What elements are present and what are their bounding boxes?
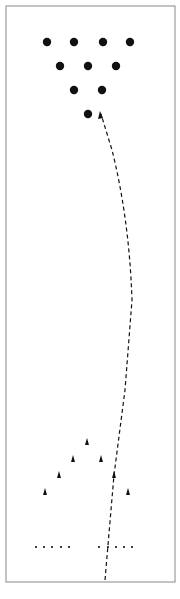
approach-dot: [131, 546, 133, 548]
pin-9: [98, 86, 106, 94]
target-arrow-icon: [43, 488, 47, 495]
pin-7: [112, 62, 120, 70]
target-arrows: [43, 438, 130, 495]
approach-dot: [68, 546, 70, 548]
pin-3: [99, 38, 107, 46]
target-arrow-icon: [99, 455, 103, 462]
approach-dot: [35, 546, 37, 548]
target-arrow-icon: [71, 455, 75, 462]
lane-border: [6, 6, 175, 582]
pin-10: [84, 110, 92, 118]
pin-5: [56, 62, 64, 70]
pin-2: [70, 38, 78, 46]
pin-formation: [43, 38, 134, 118]
ball-path-arrowhead-icon: [98, 111, 103, 119]
pin-4: [126, 38, 134, 46]
approach-dot: [43, 546, 45, 548]
bowling-lane-diagram: [0, 0, 180, 599]
target-arrow-icon: [85, 438, 89, 445]
ball-path: [101, 114, 132, 580]
pin-6: [84, 62, 92, 70]
approach-dot: [51, 546, 53, 548]
pin-1: [43, 38, 51, 46]
approach-dot: [98, 546, 100, 548]
approach-dot: [115, 546, 117, 548]
approach-dot: [123, 546, 125, 548]
approach-dot: [107, 546, 109, 548]
target-arrow-icon: [126, 488, 130, 495]
pin-8: [70, 86, 78, 94]
approach-dots: [35, 546, 133, 548]
target-arrow-icon: [57, 471, 61, 478]
approach-dot: [60, 546, 62, 548]
